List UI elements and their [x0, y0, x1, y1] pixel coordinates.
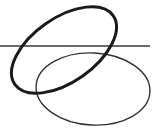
diagram-canvas [0, 0, 161, 133]
